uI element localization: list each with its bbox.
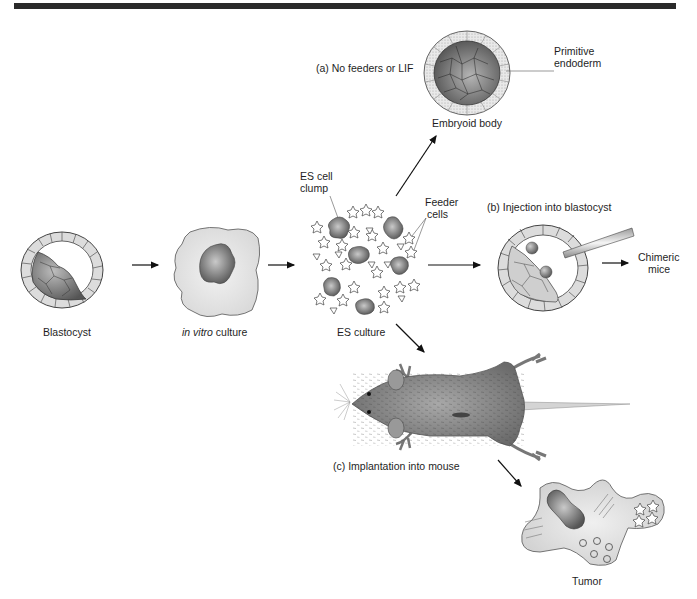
in-vitro-rest-text: culture — [213, 326, 247, 338]
feeder-cells-label-line2: cells — [427, 208, 448, 220]
es-culture-label: ES culture — [337, 326, 385, 338]
es-cell-clump-label-line2: clump — [300, 182, 328, 194]
feeder-leader-line-1 — [412, 218, 426, 236]
injection-blastocyst-illustration — [498, 225, 634, 311]
arrow-path-a — [396, 136, 436, 196]
tumor-illustration — [522, 480, 665, 565]
mouse-illustration — [334, 354, 630, 460]
tumor-label: Tumor — [572, 575, 602, 587]
blastocyst-illustration — [21, 232, 103, 308]
in-vitro-culture-illustration — [174, 227, 260, 316]
diagram-canvas — [0, 0, 697, 599]
embryoid-body-illustration — [424, 31, 554, 115]
arrow-path-c — [396, 324, 424, 352]
arrow-to-tumor — [498, 460, 521, 486]
embryoid-body-label: Embryoid body — [432, 117, 502, 129]
es-culture-illustration — [311, 196, 426, 314]
feeder-cells-label-line1: Feeder — [425, 196, 458, 208]
es-cell-clump-label-line1: ES cell — [300, 170, 333, 182]
es-clump-leader-line — [330, 196, 338, 218]
feeder-leader-line-2 — [414, 218, 426, 250]
primitive-endoderm-label-line1: Primitive — [554, 45, 594, 57]
path-c-label: (c) Implantation into mouse — [333, 460, 460, 472]
in-vitro-culture-label: in vitro culture — [182, 326, 247, 338]
chimeric-mice-label-line2: mice — [648, 263, 670, 275]
primitive-endoderm-label-line2: endoderm — [554, 57, 601, 69]
blastocyst-label: Blastocyst — [43, 326, 91, 338]
in-vitro-italic-text: in vitro — [182, 326, 213, 338]
chimeric-mice-label-line1: Chimeric — [638, 251, 679, 263]
path-b-label: (b) Injection into blastocyst — [487, 201, 611, 213]
path-a-label: (a) No feeders or LIF — [316, 62, 413, 74]
